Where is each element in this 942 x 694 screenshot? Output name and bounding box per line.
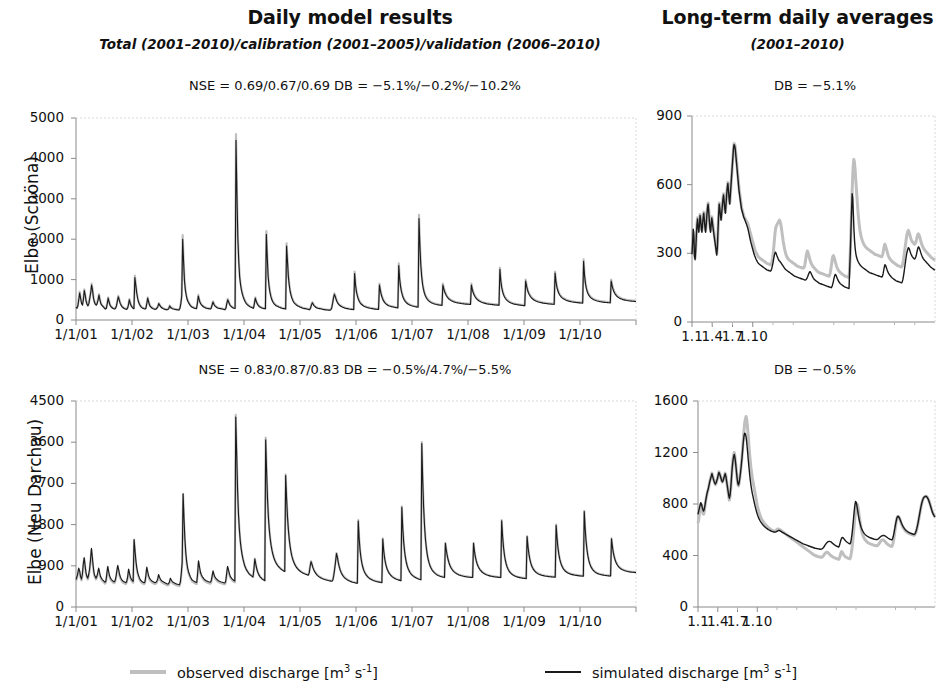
simulated-line-swatch-icon (545, 671, 581, 673)
legend: observed discharge [m3 s-1] simulated di… (0, 655, 942, 694)
legend-item-observed: observed discharge [m3 s-1] (130, 663, 378, 681)
bl-ytick-label: 4500 (18, 392, 64, 408)
figure-root: Daily model results Total (2001–2010)/ca… (0, 0, 942, 694)
legend-item-simulated: simulated discharge [m3 s-1] (545, 663, 797, 681)
right-column-subtitle: (2001–2010) (655, 36, 940, 52)
bottom-right-stats: DB = −0.5% (690, 362, 940, 377)
right-column-title: Long-term daily averages (655, 6, 940, 28)
tl-ytick-label: 1000 (18, 271, 64, 287)
panel-bottom-left (0, 385, 650, 625)
bottom-left-xticks (76, 607, 636, 612)
top-left-series (76, 134, 636, 310)
bottom-right-plot (650, 385, 942, 625)
bl-ytick-label: 0 (18, 598, 64, 614)
panel-bottom-right (650, 385, 942, 625)
observed-line-swatch-icon (130, 670, 166, 674)
panel-top-left (0, 100, 650, 340)
bl-ytick-label: 2700 (18, 474, 64, 490)
tr-xtick-label: 1.10 (713, 328, 793, 344)
tl-xtick-label: 1/1/10 (540, 326, 620, 342)
tl-ytick-label: 2000 (18, 230, 64, 246)
bl-ytick-label: 1800 (18, 516, 64, 532)
top-left-xticks (76, 320, 636, 325)
br-ytick-label: 400 (648, 547, 688, 563)
bottom-left-yticks (71, 401, 76, 607)
tr-ytick-label: 900 (648, 107, 682, 123)
tl-ytick-label: 0 (18, 311, 64, 327)
top-left-stats: NSE = 0.69/0.67/0.69 DB = −5.1%/−0.2%/−1… (75, 78, 635, 93)
top-left-yticks (71, 118, 76, 320)
bottom-right-axes (698, 401, 935, 607)
tr-ytick-label: 300 (648, 244, 682, 260)
top-left-plot (0, 100, 650, 340)
bottom-left-plot (0, 385, 650, 625)
top-right-xticks (692, 322, 915, 327)
br-ytick-label: 0 (648, 598, 688, 614)
legend-label-observed: observed discharge [m3 s-1] (177, 663, 378, 681)
bl-ytick-label: 900 (18, 557, 64, 573)
left-column-subtitle: Total (2001–2010)/calibration (2001–2005… (60, 36, 640, 52)
top-right-series (692, 143, 935, 288)
top-right-yticks (687, 116, 692, 322)
bottom-left-stats: NSE = 0.83/0.87/0.83 DB = −0.5%/4.7%/−5.… (75, 362, 635, 377)
tr-ytick-label: 600 (648, 176, 682, 192)
top-right-axes (692, 116, 935, 322)
bottom-right-yticks (693, 401, 698, 607)
tl-ytick-label: 5000 (18, 109, 64, 125)
left-column-title: Daily model results (60, 6, 640, 28)
bottom-right-series (698, 416, 935, 559)
panel-top-right (650, 100, 942, 340)
tl-ytick-label: 3000 (18, 190, 64, 206)
br-xtick-label: 1.10 (717, 613, 797, 629)
tr-ytick-label: 0 (648, 313, 682, 329)
bl-xtick-label: 1/1/10 (540, 613, 620, 629)
top-right-plot (650, 100, 942, 340)
tl-ytick-label: 4000 (18, 149, 64, 165)
bl-ytick-label: 3600 (18, 433, 64, 449)
br-ytick-label: 1600 (648, 392, 688, 408)
br-ytick-label: 1200 (648, 444, 688, 460)
bottom-right-xticks (698, 607, 915, 612)
top-right-stats: DB = −5.1% (690, 78, 940, 93)
legend-label-simulated: simulated discharge [m3 s-1] (592, 663, 797, 681)
bottom-left-series (76, 415, 636, 586)
br-ytick-label: 800 (648, 495, 688, 511)
